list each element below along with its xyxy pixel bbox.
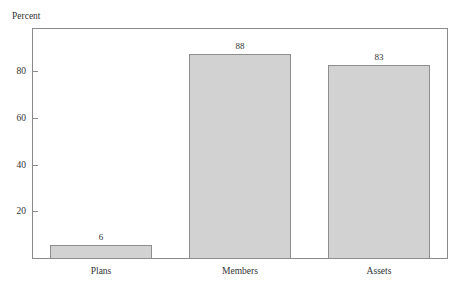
y-tick-label: 60 <box>0 112 26 125</box>
bar-value-label: 88 <box>189 41 291 52</box>
bar-value-label: 6 <box>50 232 152 243</box>
x-category-label: Members <box>189 265 291 278</box>
bar-assets <box>328 65 430 259</box>
y-tick-label: 40 <box>0 159 26 172</box>
y-tick-label: 80 <box>0 65 26 78</box>
y-tick-mark <box>32 118 38 119</box>
bar-members <box>189 54 291 259</box>
y-tick-mark <box>32 165 38 166</box>
x-category-label: Plans <box>50 265 152 278</box>
y-axis-title: Percent <box>12 10 41 22</box>
y-tick-mark <box>32 71 38 72</box>
bar-plans <box>50 245 152 259</box>
bar-chart: Percent 20406080 6Plans88Members83Assets <box>0 0 458 281</box>
bar-value-label: 83 <box>328 52 430 63</box>
y-tick-label: 20 <box>0 205 26 218</box>
y-tick-mark <box>32 211 38 212</box>
x-category-label: Assets <box>328 265 430 278</box>
